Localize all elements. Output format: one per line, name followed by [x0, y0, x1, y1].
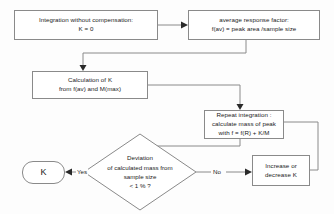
node-increase-or-decrease-k[interactable]: Increase or decrease K	[252, 155, 310, 186]
connector-response-to-calculation	[83, 40, 246, 65]
node-repeat-integration[interactable]: Repeat integration : calculate mass of p…	[204, 110, 284, 139]
node-average-response-factor[interactable]: average response factor: f(av) = peak ar…	[188, 10, 320, 40]
flowchart-canvas: Integration without compensation: K = 0 …	[0, 0, 334, 214]
arrowhead-to-terminal	[65, 169, 72, 176]
connector-calculation-to-repeat	[148, 85, 240, 104]
node-integration-without-compensation[interactable]: Integration without compensation: K = 0	[14, 10, 158, 40]
node-calculation-of-k[interactable]: Calculation of K from f(av) and M(max)	[32, 71, 148, 99]
node-deviation-decision[interactable]: Deviation of calculated mass from sample…	[84, 134, 196, 210]
edge-label-yes: Yes	[76, 168, 88, 175]
arrowhead-to-response	[181, 22, 188, 29]
edge-label-no: No	[212, 168, 222, 175]
decision-label: Deviation of calculated mass from sample…	[84, 134, 196, 210]
arrowhead-to-adjust	[245, 169, 252, 176]
node-result-k[interactable]: K	[22, 161, 65, 184]
